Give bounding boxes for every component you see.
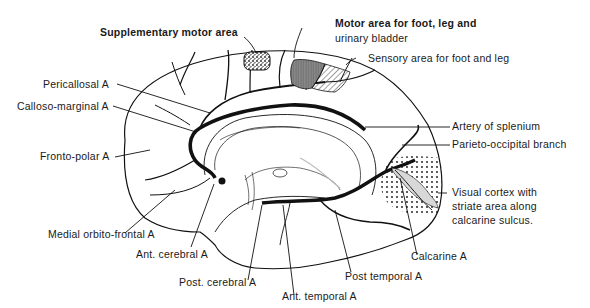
- label-visual-cortex-line2: striate area along: [452, 200, 537, 213]
- label-medial-orbito-frontal-artery: Medial orbito-frontal A: [48, 228, 155, 241]
- label-pericallosal-artery: Pericallosal A: [43, 78, 109, 91]
- anterior-cerebral-artery-path: [190, 105, 365, 178]
- label-parieto-occipital-branch: Parieto-occipital branch: [452, 138, 567, 151]
- label-visual-cortex-line3: calcarine sulcus.: [452, 214, 533, 227]
- label-posterior-temporal-artery: Post temporal A: [345, 270, 422, 283]
- label-anterior-cerebral-artery: Ant. cerebral A: [136, 248, 208, 261]
- label-visual-cortex-line1: Visual cortex with: [452, 186, 537, 199]
- label-artery-of-splenium: Artery of splenium: [452, 120, 540, 133]
- label-supplementary-motor-area: Supplementary motor area: [100, 26, 238, 39]
- label-sensory-area: Sensory area for foot and leg: [368, 52, 509, 65]
- brain-diagram: Supplementary motor area Motor area for …: [0, 0, 590, 308]
- label-motor-area-line2: urinary bladder: [335, 32, 408, 45]
- label-calloso-marginal-artery: Calloso-marginal A: [17, 100, 109, 113]
- label-anterior-temporal-artery: Ant. temporal A: [282, 290, 357, 303]
- supplementary-motor-area: [244, 52, 270, 70]
- label-fronto-polar-artery: Fronto-polar A: [40, 150, 109, 163]
- label-calcarine-artery: Calcarine A: [411, 250, 467, 263]
- label-motor-area-line1: Motor area for foot, leg and: [335, 17, 477, 30]
- label-posterior-cerebral-artery: Post. cerebral A: [179, 276, 256, 289]
